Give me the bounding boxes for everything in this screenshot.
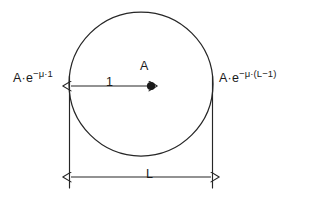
total-length-dimension-label: L xyxy=(146,168,153,181)
right-attenuation-exponent: −μ·(L−1) xyxy=(239,68,276,79)
circle-outline xyxy=(69,12,213,156)
radius-dimension-label: 1 xyxy=(106,76,113,89)
right-attenuation-label: A·e−μ·(L−1) xyxy=(219,72,277,85)
diagram-canvas xyxy=(0,0,311,198)
center-point-dot xyxy=(147,82,155,90)
figure-root: A·e−μ·1 A·e−μ·(L−1) 1 A L xyxy=(0,0,311,198)
left-attenuation-exponent: −μ·1 xyxy=(33,68,53,79)
center-point-label: A xyxy=(140,60,149,73)
left-attenuation-base: A·e xyxy=(13,71,33,85)
left-attenuation-label: A·e−μ·1 xyxy=(13,72,53,85)
right-attenuation-base: A·e xyxy=(219,71,239,85)
